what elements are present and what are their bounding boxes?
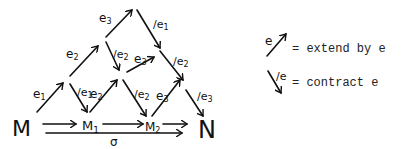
node-N: N — [198, 116, 216, 144]
label-contract-e2-upper: /e2 — [113, 48, 129, 62]
label-contract-e2-mid: /e2 — [134, 88, 150, 102]
legend: e = extend by e /e = contract e — [265, 34, 386, 93]
sigma-label: σ — [110, 135, 118, 149]
legend-extend-text: = extend by e — [292, 42, 386, 56]
filtration-diagram: M M1 M2 N σ e1 e2 e3 /e1 e2 /e2 e3 /e1 /… — [0, 0, 409, 149]
label-contract-e2-right: /e2 — [173, 55, 189, 69]
label-e3-mid: e3 — [134, 52, 146, 67]
legend-contract-text: = contract e — [292, 76, 378, 90]
label-e2-mid: e2 — [90, 87, 102, 102]
label-e2: e2 — [66, 47, 78, 62]
label-e3-low: e3 — [156, 89, 168, 104]
node-M: M — [12, 116, 31, 141]
label-e3: e3 — [99, 11, 111, 26]
legend-contract-symbol-label: /e — [276, 70, 287, 83]
label-e1: e1 — [33, 87, 45, 102]
label-contract-e3-right: /e3 — [197, 90, 213, 104]
label-contract-e1-top: /e1 — [153, 18, 169, 32]
legend-extend-symbol-label: e — [265, 34, 272, 48]
